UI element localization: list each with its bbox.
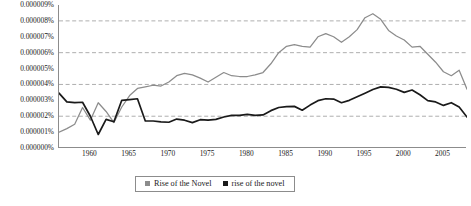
y-tick-label: 0.000009% [20,1,54,8]
y-tick-label: 0.000000% [20,144,54,151]
y-tick-label: 0.000008% [20,17,54,24]
legend-label: rise of the novel [232,179,285,188]
x-axis: 1960196519701975198019851990199520002005 [58,150,466,164]
y-tick-label: 0.000004% [20,81,54,88]
x-tick-label: 2005 [435,150,450,158]
y-tick-label: 0.000007% [20,33,54,40]
y-tick-label: 0.000001% [20,128,54,135]
y-tick-label: 0.000003% [20,97,54,104]
plot-area [58,5,466,148]
x-tick-label: 1985 [278,150,293,158]
x-tick-label: 1990 [317,150,332,158]
legend-item[interactable]: Rise of the Novel [145,179,212,188]
y-tick-label: 0.000006% [20,49,54,56]
legend-swatch-icon [145,181,150,186]
x-tick-label: 1960 [82,150,97,158]
x-tick-label: 1965 [121,150,136,158]
x-tick-label: 1980 [239,150,254,158]
y-axis: 0.000009%0.000008%0.000007%0.000006%0.00… [0,0,57,152]
legend-item[interactable]: rise of the novel [223,179,285,188]
x-tick-label: 1995 [357,150,372,158]
chart-legend: Rise of the Novelrise of the novel [135,176,295,192]
x-tick-label: 2000 [396,150,411,158]
y-tick-label: 0.000002% [20,113,54,120]
legend-label: Rise of the Novel [154,179,212,188]
x-tick-label: 1970 [160,150,175,158]
ngram-chart: 0.000009%0.000008%0.000007%0.000006%0.00… [0,0,471,206]
plot-svg [59,5,467,148]
legend-swatch-icon [223,181,228,186]
y-tick-label: 0.000005% [20,65,54,72]
x-tick-label: 1975 [200,150,215,158]
